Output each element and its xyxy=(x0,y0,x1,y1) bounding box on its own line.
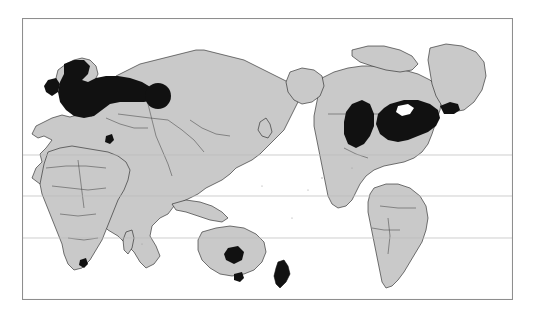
figure-root: Highlighted distribution area Land Ocean… xyxy=(0,0,533,316)
world-map-canvas xyxy=(22,18,513,300)
world-map-figure xyxy=(22,18,513,300)
highlight-central-russia-ural xyxy=(145,83,171,109)
landmass-antarctic-fringe xyxy=(22,292,513,300)
